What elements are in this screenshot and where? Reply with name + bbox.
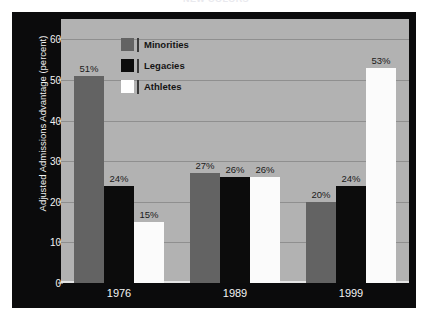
y-tick-label: 40 (17, 115, 61, 126)
bar-athletes-1976 (134, 222, 164, 283)
gridline (61, 161, 409, 162)
y-tick-label: 10 (17, 237, 61, 248)
bar-value-label: 24% (98, 173, 140, 184)
y-tick-label: 20 (17, 196, 61, 207)
bar-value-label: 51% (68, 63, 110, 74)
legend-divider-legacies (137, 59, 139, 73)
legend-label-minorities: Minorities (144, 39, 189, 50)
chart-panel: Adjusted Admissions Advantage (percent) … (13, 13, 415, 307)
x-tick-label-1999: 1999 (339, 287, 363, 299)
y-tick-label: 0 (17, 278, 61, 289)
x-tick-label-1989: 1989 (223, 287, 247, 299)
y-tick-label: 30 (17, 156, 61, 167)
legend-label-athletes: Athletes (144, 81, 181, 92)
chart-legend: Minorities Legacies Athletes (121, 34, 271, 97)
bar-value-label: 15% (128, 209, 170, 220)
bar-legacies-1976 (104, 186, 134, 283)
legend-swatch-legacies (121, 59, 134, 72)
legend-item-minorities: Minorities (121, 34, 271, 55)
legend-swatch-minorities (121, 38, 134, 51)
y-tick-label: 50 (17, 74, 61, 85)
x-tick-label-1976: 1976 (107, 287, 131, 299)
y-tick-label: 60 (17, 34, 61, 45)
bar-legacies-1999 (336, 186, 366, 283)
bar-minorities-1999 (306, 202, 336, 283)
legend-divider-athletes (137, 80, 139, 94)
y-axis: Adjusted Admissions Advantage (percent) … (13, 13, 61, 307)
bar-value-label: 53% (360, 55, 402, 66)
legend-label-legacies: Legacies (144, 60, 185, 71)
legend-swatch-athletes (121, 80, 134, 93)
bar-minorities-1989 (190, 173, 220, 283)
legend-divider-minorities (137, 38, 139, 52)
bar-value-label: 26% (244, 164, 286, 175)
x-axis: 197619891999 (61, 283, 409, 307)
legend-item-athletes: Athletes (121, 76, 271, 97)
chart-figure: NEW COLORS Adjusted Admissions Advantage… (0, 0, 432, 322)
figure-title: NEW COLORS (0, 0, 432, 4)
bar-athletes-1999 (366, 68, 396, 283)
bar-legacies-1989 (220, 177, 250, 283)
legend-item-legacies: Legacies (121, 55, 271, 76)
gridline (61, 121, 409, 122)
bar-athletes-1989 (250, 177, 280, 283)
